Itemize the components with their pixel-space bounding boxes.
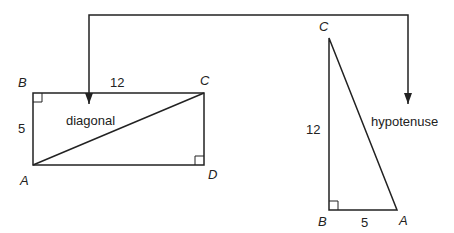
right-angle-b2-icon <box>329 201 338 210</box>
right-angle-d-icon <box>195 156 204 165</box>
right-angle-b-icon <box>33 93 42 102</box>
diagonal-line <box>33 93 204 165</box>
connector-arrow <box>85 15 412 104</box>
rect-side-left-length: 5 <box>18 121 25 136</box>
rect-vertex-b: B <box>18 75 27 90</box>
tri-vertex-c: C <box>319 19 329 34</box>
tri-vertex-a: A <box>398 213 408 228</box>
rect-vertex-c: C <box>200 73 210 88</box>
diagram-canvas: B C A D 12 5 diagonal C B A 12 5 hypoten… <box>0 0 454 233</box>
tri-vertex-b: B <box>318 214 327 229</box>
rect-vertex-d: D <box>208 167 217 182</box>
rectangle-abcd <box>33 93 204 165</box>
hypotenuse-label: hypotenuse <box>371 114 438 129</box>
rect-side-top-length: 12 <box>110 75 124 90</box>
tri-side-bottom-length: 5 <box>361 215 368 230</box>
tri-side-vertical-length: 12 <box>306 122 320 137</box>
diagonal-label: diagonal <box>66 113 115 128</box>
rect-vertex-a: A <box>19 173 29 188</box>
arrowhead-left-icon <box>85 93 93 104</box>
arrowhead-right-icon <box>404 93 412 104</box>
